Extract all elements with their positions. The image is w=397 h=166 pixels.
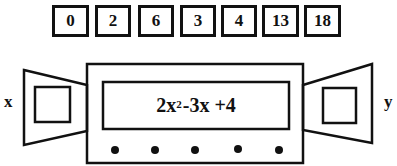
indicator-dot bbox=[234, 145, 242, 153]
output-funnel bbox=[303, 64, 372, 143]
indicator-dot bbox=[151, 146, 159, 154]
indicator-dot bbox=[111, 146, 119, 154]
output-slot bbox=[323, 88, 356, 123]
indicator-dot bbox=[275, 146, 283, 154]
function-display: 2x2-3x +4 bbox=[103, 82, 289, 129]
function-term-rest: -3x +4 bbox=[183, 94, 236, 117]
indicator-dot bbox=[191, 146, 199, 154]
input-funnel bbox=[24, 70, 87, 145]
function-exponent: 2 bbox=[176, 98, 182, 110]
function-term-quadratic: 2x bbox=[156, 94, 176, 117]
input-label-x: x bbox=[4, 92, 13, 112]
output-label-y: y bbox=[384, 92, 393, 112]
input-slot bbox=[35, 87, 70, 122]
